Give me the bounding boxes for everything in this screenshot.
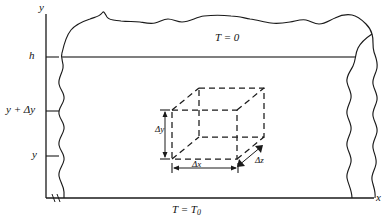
bottom-boundary-condition-label: T = T0 xyxy=(172,204,201,217)
bottom-boundary-condition-subscript: 0 xyxy=(197,208,201,217)
slab-right-inner-wavy-edge xyxy=(347,34,372,198)
delta-y-arrowhead-top xyxy=(163,111,168,117)
top-boundary-condition-label: T = 0 xyxy=(215,32,239,43)
delta-y-label: Δy xyxy=(155,125,164,134)
delta-z-arrowhead-lower xyxy=(237,159,245,167)
slab-left-wavy-edge xyxy=(59,53,64,198)
delta-z-arrowhead-upper xyxy=(255,145,263,153)
delta-x-arrowhead-right xyxy=(231,166,237,171)
bottom-boundary-condition-text: T = T xyxy=(172,203,197,215)
tick-label-h: h xyxy=(29,50,35,61)
delta-x-arrowhead-left xyxy=(173,166,179,171)
delta-x-label: Δx xyxy=(192,160,201,169)
delta-y-arrowhead-bottom xyxy=(163,152,168,158)
cube-edge-top-right xyxy=(237,88,264,110)
figure-canvas: y x h y + Δy y T = 0 T = T0 Δy Δx Δz xyxy=(0,0,392,224)
tick-label-y: y xyxy=(32,149,37,160)
x-axis-label: x xyxy=(376,192,381,203)
y-axis-label: y xyxy=(39,2,44,13)
diagram-svg xyxy=(0,0,392,224)
tick-label-y-plus-delta-y: y + Δy xyxy=(6,104,35,115)
cube-edge-top-left xyxy=(172,88,199,110)
cube-edge-bottom-left xyxy=(172,137,199,159)
slab-right-outer-wavy-edge xyxy=(372,34,377,198)
delta-z-label: Δz xyxy=(255,156,264,165)
